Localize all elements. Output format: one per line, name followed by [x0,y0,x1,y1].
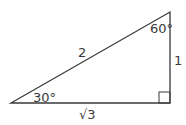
angle-60-label: 60° [150,22,173,35]
vertical-side-label: 1 [174,54,182,67]
hypotenuse-label: 2 [78,46,86,59]
right-angle-marker [159,92,170,103]
angle-30-label: 30° [33,91,56,104]
horizontal-side-label: √3 [79,108,96,121]
